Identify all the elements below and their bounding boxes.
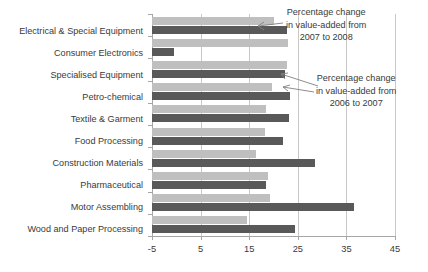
category-label-pharmaceutical: Pharmaceutical: [80, 180, 143, 190]
dark-bar-pharmaceutical: [152, 181, 266, 189]
category-label-wood-paper-processing: Wood and Paper Processing: [27, 224, 143, 234]
dark-bar-specialised-equipment: [152, 70, 285, 78]
light-bar-electrical-special-equipment: [152, 17, 274, 25]
x-tick-5: [201, 236, 202, 240]
x-tick-label--5: -5: [148, 244, 156, 254]
light-bar-consumer-electronics: [152, 39, 288, 47]
x-tick--5: [152, 236, 153, 240]
x-tick-label-15: 15: [244, 244, 254, 254]
y-tick-5: [148, 125, 152, 126]
x-tick-label-45: 45: [390, 244, 400, 254]
category-label-electrical-special-equipment: Electrical & Special Equipment: [19, 26, 143, 36]
y-tick-8: [148, 192, 152, 193]
annotation-2007-2008: Percentage change in value-added from 20…: [286, 6, 366, 44]
category-label-food-processing: Food Processing: [75, 136, 143, 146]
x-tick-label-5: 5: [198, 244, 203, 254]
y-tick-2: [148, 58, 152, 59]
y-tick-6: [148, 147, 152, 148]
dark-bar-consumer-electronics: [152, 48, 174, 56]
category-label-specialised-equipment: Specialised Equipment: [50, 70, 143, 80]
x-tick-label-25: 25: [293, 244, 303, 254]
y-tick-0: [148, 14, 152, 15]
light-bar-construction-materials: [152, 150, 256, 158]
x-tick-label-35: 35: [341, 244, 351, 254]
light-bar-pharmaceutical: [152, 172, 268, 180]
annotation-2007-2008-line2: in value-added from: [286, 19, 366, 32]
light-bar-petro-chemical: [152, 83, 272, 91]
dark-bar-construction-materials: [152, 159, 315, 167]
x-tick-45: [395, 236, 396, 240]
y-tick-3: [148, 81, 152, 82]
light-bar-wood-and-paper-processing: [152, 216, 247, 224]
light-bar-textile-garment: [152, 105, 266, 113]
annotation-2006-2007-line1: Percentage change: [316, 72, 396, 85]
category-label-petro-chemical: Petro-chemical: [82, 92, 143, 102]
x-tick-15: [249, 236, 250, 240]
category-axis-labels: Electrical & Special Equipment Consumer …: [0, 14, 147, 236]
category-label-motor-assembling: Motor Assembling: [71, 202, 143, 212]
plot-area: -5515253545: [152, 14, 395, 236]
dark-bar-motor-assembling: [152, 203, 354, 211]
light-bar-food-processing: [152, 128, 265, 136]
light-bar-specialised-equipment: [152, 61, 287, 69]
light-bar-motor-assembling: [152, 194, 270, 202]
x-axis-line: [152, 236, 395, 237]
annotation-2006-2007: Percentage change in value-added from 20…: [316, 72, 396, 110]
category-label-construction-materials: Construction Materials: [53, 158, 143, 168]
x-tick-35: [346, 236, 347, 240]
annotation-2007-2008-line1: Percentage change: [286, 6, 366, 19]
category-label-consumer-electronics: Consumer Electronics: [54, 48, 143, 58]
dark-bar-food-processing: [152, 137, 283, 145]
annotation-2006-2007-line3: 2006 to 2007: [316, 97, 396, 110]
y-tick-4: [148, 103, 152, 104]
x-tick-25: [298, 236, 299, 240]
category-label-textile-garment: Textile & Garment: [71, 114, 143, 124]
dark-bar-textile-garment: [152, 114, 289, 122]
bar-chart: Electrical & Special Equipment Consumer …: [0, 0, 428, 272]
y-tick-7: [148, 169, 152, 170]
y-tick-1: [148, 36, 152, 37]
y-tick-9: [148, 214, 152, 215]
annotation-2006-2007-line2: in value-added from: [316, 85, 396, 98]
dark-bar-electrical-special-equipment: [152, 26, 287, 34]
dark-bar-wood-and-paper-processing: [152, 225, 295, 233]
dark-bar-petro-chemical: [152, 92, 290, 100]
gridline-45: [395, 14, 396, 236]
annotation-2007-2008-line3: 2007 to 2008: [286, 31, 366, 44]
